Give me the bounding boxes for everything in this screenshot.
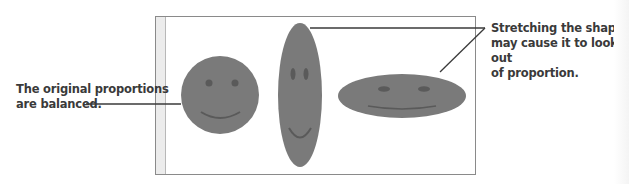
- horizontally-stretched-smiley-shape: [338, 74, 466, 118]
- vertically-stretched-smiley-shape: [278, 23, 322, 167]
- page-edge-shadow: [614, 0, 629, 184]
- right-callout-line-3: of proportion.: [491, 66, 629, 81]
- left-callout-line-1: The original proportions: [16, 82, 186, 97]
- original-smiley-shape: [181, 56, 259, 134]
- left-callout-line-2: are balanced.: [16, 97, 186, 112]
- left-callout-text: The original proportions are balanced.: [16, 82, 186, 112]
- right-callout-line-2: may cause it to look out: [491, 36, 629, 66]
- right-callout-text: Stretching the shape may cause it to loo…: [491, 21, 629, 81]
- right-callout-line-1: Stretching the shape: [491, 21, 629, 36]
